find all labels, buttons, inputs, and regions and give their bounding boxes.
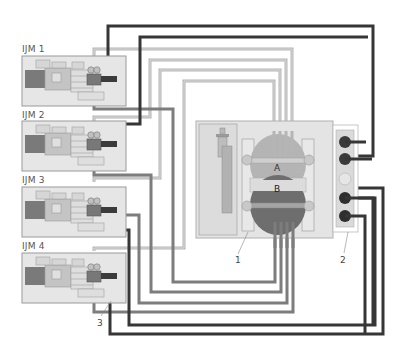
vessel-a-label: A	[274, 163, 280, 173]
machine-label-ijm1: IJM 1	[22, 44, 45, 54]
callout-3: 3	[97, 318, 103, 328]
callout-2: 2	[340, 255, 346, 265]
machine-ijm1	[22, 56, 126, 106]
callout-1: 1	[235, 255, 241, 265]
vessel-b-label: B	[274, 184, 280, 194]
machine-ijm4	[22, 253, 126, 303]
port-3	[339, 173, 351, 185]
central-unit	[196, 121, 333, 238]
piping-diagram	[0, 0, 393, 351]
machine-label-ijm4: IJM 4	[22, 241, 45, 251]
machine-label-ijm3: IJM 3	[22, 175, 45, 185]
machine-ijm3	[22, 187, 126, 237]
machine-label-ijm2: IJM 2	[22, 110, 45, 120]
machine-ijm2	[22, 121, 126, 171]
